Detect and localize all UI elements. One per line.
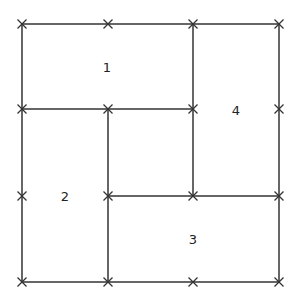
region-label-2: 2	[61, 190, 69, 203]
diagram-canvas	[0, 0, 297, 299]
vertex-markers	[18, 20, 284, 287]
partition-lines	[22, 24, 279, 282]
region-label-3: 3	[189, 233, 197, 246]
region-label-1: 1	[103, 61, 111, 74]
region-label-4: 4	[232, 104, 240, 117]
partition-diagram: 1 2 3 4	[0, 0, 297, 299]
